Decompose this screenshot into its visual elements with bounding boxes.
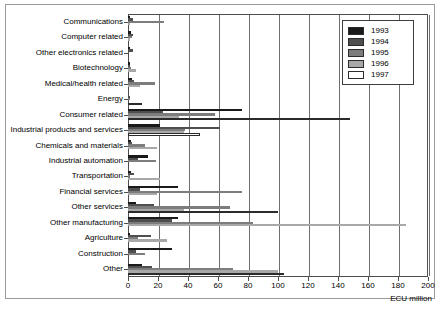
category-label: Consumer related xyxy=(59,110,123,119)
bar xyxy=(128,49,133,51)
legend-item: 1997 xyxy=(348,69,408,80)
category-label: Transportation xyxy=(72,171,123,180)
bar-group xyxy=(128,246,428,261)
bar xyxy=(128,98,130,100)
legend-label: 1995 xyxy=(371,49,389,57)
category-axis: CommunicationsComputer relatedOther elec… xyxy=(0,14,128,277)
bar xyxy=(128,23,130,25)
axis-tick-label: 200 xyxy=(408,281,442,290)
bar xyxy=(128,253,145,255)
category-label: Chemicals and materials xyxy=(35,141,123,150)
bar-group xyxy=(128,122,428,137)
legend-swatch xyxy=(348,27,364,35)
bar-group xyxy=(128,91,428,106)
bar xyxy=(128,211,278,213)
bar xyxy=(128,224,406,226)
bar-group xyxy=(128,138,428,153)
legend-swatch xyxy=(348,38,364,46)
bar-group xyxy=(128,169,428,184)
category-label: Other electronics related xyxy=(36,48,123,57)
bar-group xyxy=(128,231,428,246)
chart-figure: CommunicationsComputer relatedOther elec… xyxy=(0,0,442,317)
bar xyxy=(128,160,156,162)
legend-item: 1994 xyxy=(348,36,408,47)
bar xyxy=(128,21,164,23)
bar xyxy=(128,273,284,275)
bar xyxy=(128,133,200,135)
legend: 19931994199519961997 xyxy=(342,20,414,85)
category-label: Biotechnology xyxy=(73,63,123,72)
bar-group xyxy=(128,200,428,215)
bar xyxy=(128,193,157,195)
category-label: Medical/health related xyxy=(45,79,123,88)
category-label: Construction xyxy=(78,249,123,258)
category-label: Other xyxy=(103,264,123,273)
gridline xyxy=(429,15,430,276)
category-label: Industrial products and services xyxy=(11,125,124,134)
legend-label: 1994 xyxy=(371,38,389,46)
bar-group xyxy=(128,262,428,277)
category-label: Other manufacturing xyxy=(50,218,123,227)
legend-item: 1995 xyxy=(348,47,408,58)
bar xyxy=(128,178,160,180)
legend-swatch xyxy=(348,49,364,57)
bar xyxy=(128,85,140,87)
bar xyxy=(128,239,167,241)
bar xyxy=(128,38,130,40)
category-label: Industrial automation xyxy=(49,156,123,165)
axis-units-label: ECU million xyxy=(390,294,432,303)
bar-group xyxy=(128,184,428,199)
legend-label: 1993 xyxy=(371,27,389,35)
category-label: Agriculture xyxy=(85,233,123,242)
bar-group xyxy=(128,153,428,168)
legend-swatch xyxy=(348,60,364,68)
category-label: Energy xyxy=(98,94,123,103)
legend-label: 1996 xyxy=(371,60,389,68)
category-label: Communications xyxy=(63,17,123,26)
legend-item: 1996 xyxy=(348,58,408,69)
legend-label: 1997 xyxy=(371,71,389,79)
bar xyxy=(128,147,157,149)
category-label: Financial services xyxy=(59,187,123,196)
legend-item: 1993 xyxy=(348,25,408,36)
legend-swatch xyxy=(348,71,364,79)
bar xyxy=(128,118,350,120)
bar-group xyxy=(128,215,428,230)
bar xyxy=(128,69,136,71)
category-label: Computer related xyxy=(61,32,123,41)
bar-group xyxy=(128,107,428,122)
bar xyxy=(128,103,142,105)
category-label: Other services xyxy=(71,202,123,211)
